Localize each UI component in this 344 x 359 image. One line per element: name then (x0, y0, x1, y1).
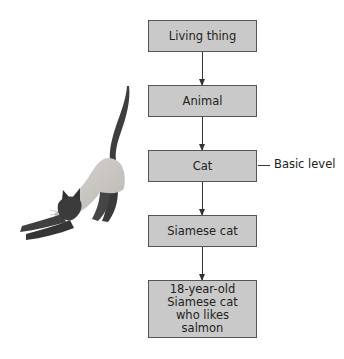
node-animal: Animal (148, 85, 257, 117)
node-label: Living thing (165, 30, 240, 43)
node-label: Siamese cat (163, 225, 241, 238)
arrow-down (202, 182, 203, 215)
basic-level-label: Basic level (274, 157, 335, 171)
node-label: Cat (189, 160, 217, 173)
node-specific-cat: 18-year-old Siamese cat who likes salmon (148, 280, 257, 338)
annotation-connector-line (258, 165, 270, 166)
node-living-thing: Living thing (148, 20, 257, 52)
siamese-cat-illustration (0, 70, 140, 250)
arrow-down (202, 117, 203, 150)
arrow-down (202, 52, 203, 85)
node-label: 18-year-old Siamese cat who likes salmon (151, 283, 255, 335)
node-cat: Cat (148, 150, 257, 182)
node-label: Animal (179, 95, 227, 108)
arrow-down (202, 247, 203, 280)
node-siamese-cat: Siamese cat (148, 215, 257, 247)
